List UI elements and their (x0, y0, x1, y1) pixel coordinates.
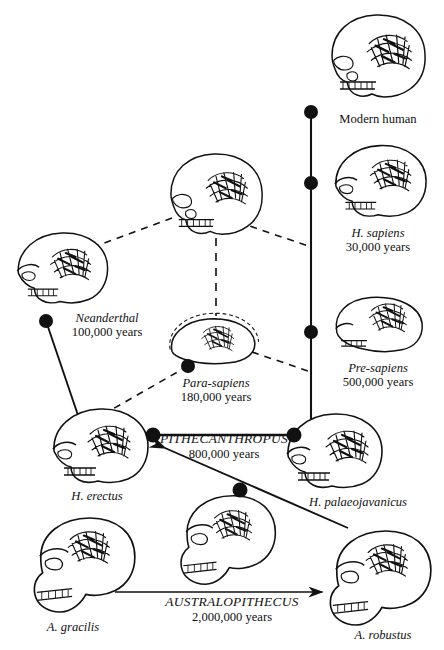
node-pithec-left[interactable] (146, 428, 161, 443)
label-australopithecus-name: AUSTRALOPITHECUS (165, 594, 299, 609)
label-pre-sapiens: Pre-sapiens 500,000 years (343, 361, 414, 389)
node-neanderthal[interactable] (39, 314, 53, 328)
node-pre-sapiens[interactable] (304, 325, 318, 339)
skull-unnamed-middle (171, 154, 262, 234)
label-pre-sapiens-name: Pre-sapiens (343, 361, 414, 375)
label-neanderthal-name: Neanderthal (72, 311, 143, 325)
figure-canvas: Modern human H. sapiens 30,000 years Pre… (0, 0, 444, 650)
label-a-robustus-name: A. robustus (355, 628, 412, 642)
label-h-sapiens: H. sapiens 30,000 years (346, 226, 410, 254)
label-australopithecus-age: 2,000,000 years (165, 610, 299, 624)
skull-neanderthal (17, 233, 107, 303)
node-modern-human[interactable] (304, 105, 318, 119)
label-h-erectus-name: H. erectus (71, 489, 122, 503)
label-h-sapiens-age: 30,000 years (346, 240, 410, 254)
node-australo[interactable] (233, 483, 248, 498)
label-para-sapiens: Para-sapiens 180,000 years (181, 376, 252, 404)
label-h-erectus: H. erectus (71, 489, 122, 503)
label-pithecanthropus-age: 800,000 years (160, 447, 288, 461)
label-neanderthal: Neanderthal 100,000 years (72, 311, 143, 339)
skull-a-gracilis (34, 518, 134, 612)
skull-h-erectus (53, 409, 148, 482)
label-h-sapiens-name: H. sapiens (346, 226, 410, 240)
label-para-sapiens-name: Para-sapiens (181, 376, 252, 390)
label-pithecanthropus: PITHECANTHROPUS 800,000 years (160, 429, 288, 461)
label-modern-human-name: Modern human (339, 112, 416, 126)
label-australopithecus: AUSTRALOPITHECUS 2,000,000 years (165, 592, 299, 624)
node-h-sapiens[interactable] (304, 176, 318, 190)
label-h-palaeojavanicus-name: H. palaeojavanicus (309, 495, 407, 509)
skull-h-sapiens (335, 146, 426, 217)
label-a-robustus: A. robustus (355, 628, 412, 642)
diagram-svg (0, 0, 444, 650)
label-neanderthal-age: 100,000 years (72, 325, 143, 339)
label-a-gracilis: A. gracilis (47, 620, 99, 634)
edge-para-to-erectus (104, 366, 188, 414)
node-para-sapiens[interactable] (181, 359, 195, 373)
label-a-gracilis-name: A. gracilis (47, 620, 99, 634)
label-para-sapiens-age: 180,000 years (181, 390, 252, 404)
skull-para-sapiens (170, 313, 259, 363)
label-h-palaeojavanicus: H. palaeojavanicus (309, 495, 407, 509)
skull-h-palaeojavanicus (287, 414, 382, 487)
skull-modern-human (332, 15, 425, 97)
label-pre-sapiens-age: 500,000 years (343, 375, 414, 389)
skull-unnamed-lower (181, 496, 275, 584)
edge-mid-to-neanderthal (88, 218, 172, 249)
node-pithec-right[interactable] (287, 428, 302, 443)
label-modern-human: Modern human (339, 112, 416, 126)
edge-para-to-presapiens (252, 352, 311, 372)
skull-a-robustus (330, 531, 430, 625)
label-pithecanthropus-name: PITHECANTHROPUS (160, 431, 288, 446)
skull-pre-sapiens (336, 297, 423, 351)
